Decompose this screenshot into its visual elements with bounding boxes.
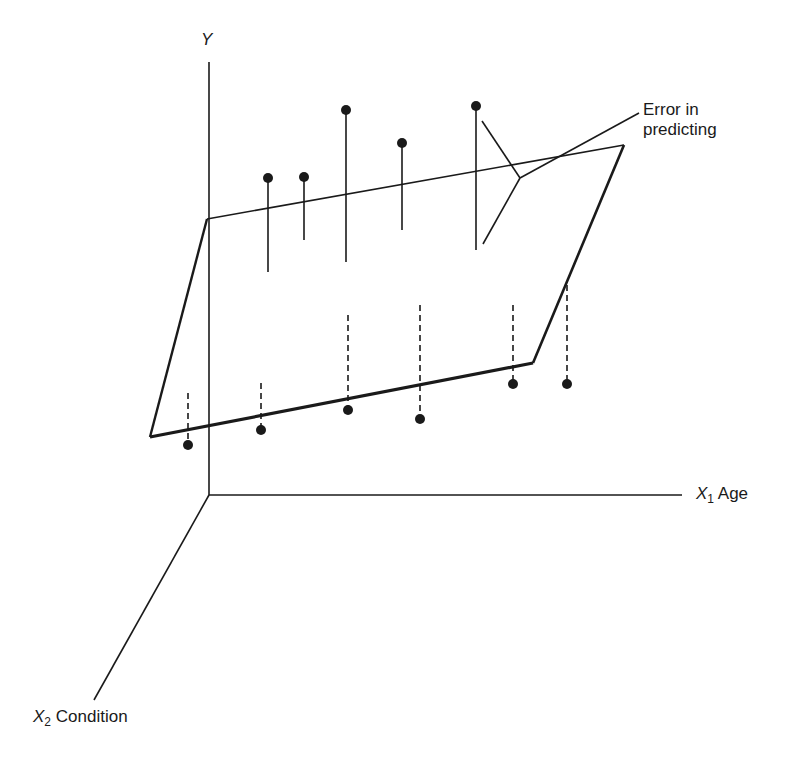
data-points-above (263, 101, 481, 183)
x2-axis (94, 495, 209, 700)
data-point (562, 379, 572, 389)
data-point (299, 172, 309, 182)
x1-name: Age (718, 484, 748, 503)
data-point (256, 425, 266, 435)
y-axis-label: Y (201, 30, 212, 50)
regression-plane (150, 145, 624, 437)
data-point (508, 379, 518, 389)
data-point (397, 138, 407, 148)
x2-subscript: 2 (44, 715, 51, 729)
x2-axis-label: X2 Condition (33, 707, 128, 729)
plane-left-edge (150, 219, 207, 437)
x1-symbol: X (696, 484, 707, 503)
axes (94, 62, 682, 700)
residuals-below (188, 285, 567, 445)
data-point (183, 440, 193, 450)
annotation-line-2: predicting (643, 120, 717, 140)
x1-subscript: 1 (707, 492, 714, 506)
x2-symbol: X (33, 707, 44, 726)
data-point (415, 414, 425, 424)
data-point (471, 101, 481, 111)
x2-name: Condition (56, 707, 128, 726)
plane-right-edge (533, 145, 624, 363)
x1-axis-label: X1 Age (696, 484, 748, 506)
data-point (343, 405, 353, 415)
plane-bottom-edge (150, 363, 533, 437)
data-point (263, 173, 273, 183)
error-annotation-pointer (482, 113, 639, 244)
data-points-below (183, 379, 572, 450)
error-annotation-label: Error in predicting (643, 100, 717, 140)
data-point (341, 105, 351, 115)
annotation-line-1: Error in (643, 100, 717, 120)
